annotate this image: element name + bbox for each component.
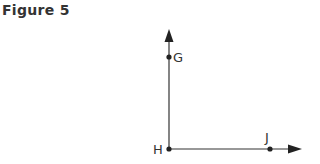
point-j-dot xyxy=(267,146,272,151)
vertical-ray xyxy=(165,29,174,149)
horizontal-ray xyxy=(169,145,302,154)
point-g-label: G xyxy=(173,50,183,65)
arrow-up-icon xyxy=(165,29,174,42)
angle-diagram: G H J xyxy=(0,0,320,164)
point-j-label: J xyxy=(264,130,269,145)
point-g-dot xyxy=(166,54,171,59)
point-h-label: H xyxy=(153,142,163,157)
point-h-dot xyxy=(166,146,171,151)
arrow-right-icon xyxy=(288,145,302,154)
